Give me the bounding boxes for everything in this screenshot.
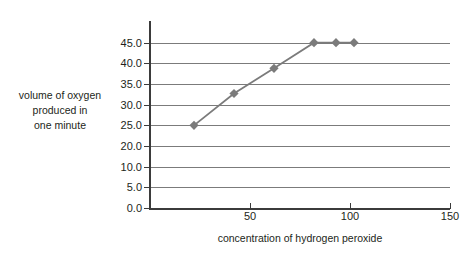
- data-series-layer: [0, 0, 468, 257]
- x-axis-title: concentration of hydrogen peroxide: [150, 232, 450, 244]
- data-point-marker: [331, 38, 340, 47]
- data-point-marker: [269, 64, 278, 73]
- data-point-marker: [349, 38, 358, 47]
- data-point-marker: [309, 38, 318, 47]
- series-line: [194, 43, 354, 126]
- oxygen-concentration-line-chart: volume of oxygen produced in one minute …: [0, 0, 468, 257]
